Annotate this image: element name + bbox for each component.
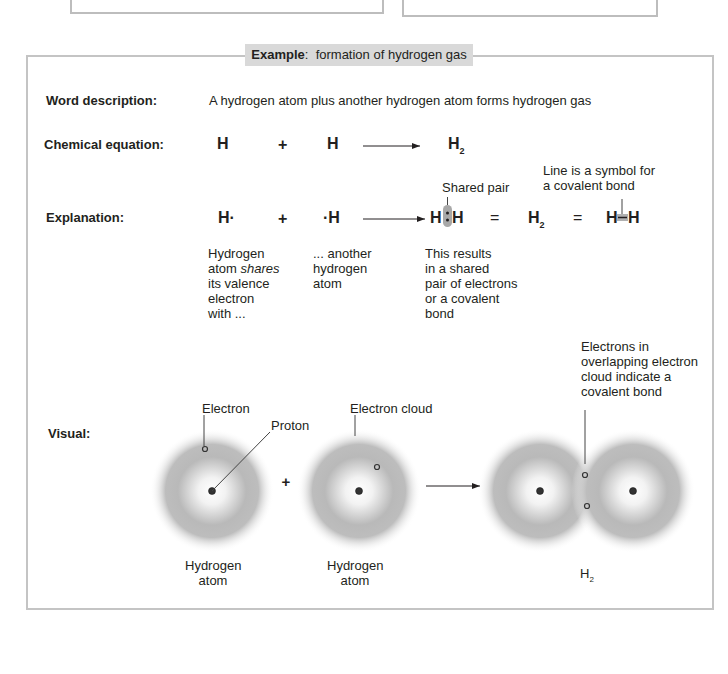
h2-molecule-visual bbox=[478, 410, 695, 553]
diagram-graphics: + bbox=[0, 0, 728, 674]
shared-pair-highlight bbox=[443, 197, 452, 227]
hydrogen-atom-1 bbox=[150, 415, 274, 553]
hydrogen-atom-2 bbox=[297, 415, 421, 553]
visual-plus: + bbox=[282, 473, 291, 490]
covalent-bond-line bbox=[617, 199, 628, 221]
